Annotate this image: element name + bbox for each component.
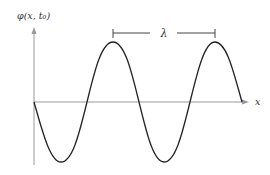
x-axis-label: x [255, 96, 261, 107]
y-axis-arrow-icon [32, 27, 37, 34]
x-axis-arrow-icon [242, 100, 249, 105]
wave-diagram: λ φ(x, t₀) x [0, 0, 270, 175]
wavelength-label: λ [160, 27, 168, 40]
y-axis-label: φ(x, t₀) [17, 10, 50, 21]
